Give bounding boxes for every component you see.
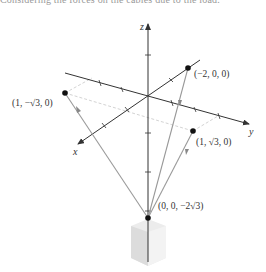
y-axis-label: y	[248, 126, 254, 137]
dashed-plane	[65, 78, 218, 131]
point-3	[190, 128, 196, 134]
y-axis	[65, 73, 249, 124]
cable-2	[148, 68, 188, 218]
point-2-label: (−2, 0, 0)	[194, 69, 229, 80]
point-3-label: (1, √3, 0)	[196, 137, 231, 148]
point-4-label: (0, 0, −2√3)	[158, 201, 203, 212]
point-1-label: (1, −√3, 0)	[12, 98, 53, 109]
z-axis-label: z	[139, 21, 144, 32]
cable-diagram: (1, −√3, 0) (−2, 0, 0) (1, √3, 0) (0, 0,…	[0, 0, 266, 272]
point-2	[185, 65, 191, 71]
x-axis-label: x	[72, 146, 78, 157]
point-4	[145, 215, 151, 221]
point-1	[62, 90, 68, 96]
